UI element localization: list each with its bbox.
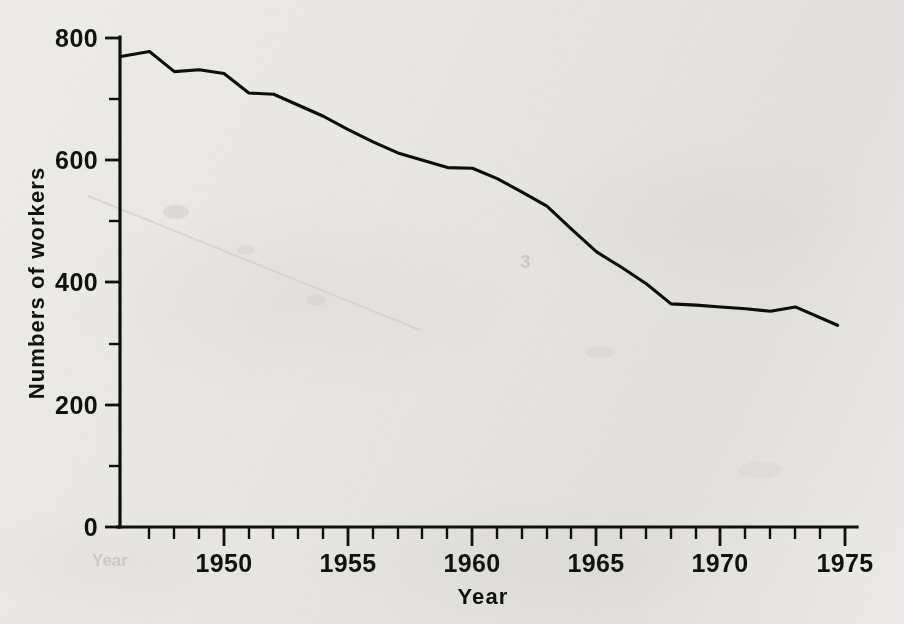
ghost-marks: 3 Year <box>88 196 782 570</box>
y-tick-label-200: 200 <box>55 391 98 419</box>
x-tick-label-1960: 1960 <box>443 549 500 577</box>
line-chart: 3 Year <box>0 0 904 624</box>
y-axis-major-ticks <box>105 38 120 527</box>
x-axis-title: Year <box>458 584 509 609</box>
chart-svg: 3 Year <box>0 0 904 624</box>
y-tick-label-600: 600 <box>55 146 98 174</box>
y-axis-tick-labels: 800 600 400 200 0 <box>55 24 98 541</box>
x-tick-label-1955: 1955 <box>319 549 376 577</box>
ghost-text-bottom-left: Year <box>92 551 128 570</box>
data-series-line <box>122 51 837 325</box>
ghost-text-right: 3 <box>520 251 531 272</box>
y-axis-title: Numbers of workers <box>24 167 49 400</box>
x-tick-label-1965: 1965 <box>567 549 624 577</box>
x-axis-tick-labels: 1950 1955 1960 1965 1970 1975 <box>195 549 873 577</box>
x-tick-label-1950: 1950 <box>195 549 252 577</box>
y-tick-label-800: 800 <box>55 24 98 52</box>
x-tick-label-1975: 1975 <box>816 549 873 577</box>
x-tick-label-1970: 1970 <box>691 549 748 577</box>
y-tick-label-400: 400 <box>55 268 98 296</box>
axis-group: 800 600 400 200 0 <box>55 24 874 577</box>
y-tick-label-0: 0 <box>84 513 98 541</box>
x-axis-major-ticks <box>224 527 845 546</box>
